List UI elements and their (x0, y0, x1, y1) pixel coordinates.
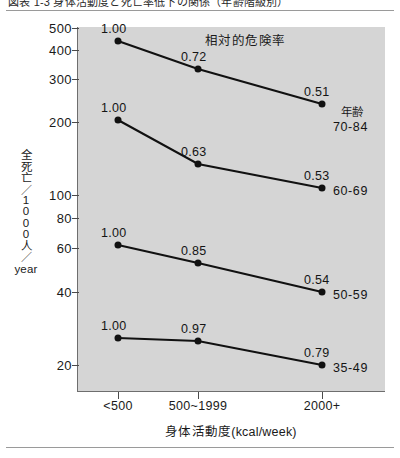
point-label-60-69-0: 1.00 (101, 101, 127, 115)
y-tick-mark-60 (72, 248, 79, 249)
plot-area (77, 27, 385, 392)
point-label-35-49-1: 0.97 (181, 322, 207, 336)
x-tick-label-2: 2000+ (272, 399, 372, 413)
point-label-50-59-2: 0.54 (304, 273, 330, 287)
x-tick-label-1: 500~1999 (138, 399, 258, 413)
point-label-60-69-2: 0.53 (304, 169, 330, 183)
y-tick-mark-200 (72, 122, 79, 123)
x-axis-title: 身体活動度(kcal/week) (77, 421, 385, 440)
series-label-70-84: 70-84 (333, 120, 368, 134)
point-label-50-59-0: 1.00 (101, 226, 127, 240)
footer-divider (6, 447, 394, 448)
point-label-70-84-0: 1.00 (101, 22, 127, 36)
point-label-70-84-2: 0.51 (304, 85, 330, 99)
caption-divider (6, 10, 394, 11)
y-axis-title-char-9: ／ (13, 252, 39, 262)
point-label-70-84-1: 0.72 (181, 50, 207, 64)
y-tick-label-500: 500 (30, 21, 72, 36)
point-label-35-49-2: 0.79 (304, 346, 330, 360)
y-tick-label-400: 400 (30, 43, 72, 58)
figure-caption: 図表 1-3 身体活動度と死亡率低下の関係（年齢階級別） (8, 0, 289, 9)
y-tick-mark-500 (72, 28, 79, 29)
point-label-35-49-0: 1.00 (101, 319, 127, 333)
series-label-50-59: 50-59 (333, 288, 368, 302)
x-tick-mark-2 (322, 392, 323, 399)
y-tick-mark-300 (72, 79, 79, 80)
chart-title: 相対的危険率 (205, 30, 285, 49)
y-tick-mark-80 (72, 218, 79, 219)
y-tick-label-300: 300 (30, 72, 72, 87)
legend-title: 年齢 (341, 103, 364, 119)
y-tick-mark-400 (72, 50, 79, 51)
y-tick-mark-20 (72, 365, 79, 366)
series-label-60-69: 60-69 (333, 184, 368, 198)
y-tick-mark-40 (72, 292, 79, 293)
y-tick-label-40: 40 (30, 285, 72, 300)
y-tick-label-200: 200 (30, 115, 72, 130)
y-axis-title-char-5: 0 (13, 206, 39, 218)
y-tick-mark-100 (72, 195, 79, 196)
y-axis-title-char-10: year (13, 262, 39, 276)
y-axis-title-char-7: 0 (13, 229, 39, 241)
x-tick-mark-0 (118, 392, 119, 399)
point-label-60-69-1: 0.63 (181, 145, 207, 159)
series-label-35-49: 35-49 (333, 361, 368, 375)
y-axis-title-char-0: 全 (13, 150, 39, 162)
x-tick-mark-1 (198, 392, 199, 399)
x-axis-line (77, 391, 385, 392)
y-axis-title: 全 死 亡 ／ 1 0 0 0 人 ／ year (13, 150, 39, 276)
point-label-50-59-1: 0.85 (181, 244, 207, 258)
y-tick-label-20: 20 (30, 358, 72, 373)
y-axis-title-char-3: ／ (13, 185, 39, 195)
